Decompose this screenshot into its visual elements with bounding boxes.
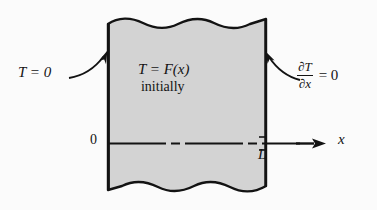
left-pointer-arrow [69,56,104,78]
left-pointer-arrowhead [99,51,107,65]
partial-derivative-fraction: ∂T∂x [296,60,314,90]
slab-shape [108,19,266,192]
origin-label: 0 [90,133,97,147]
heat-conduction-slab-figure: T = 0 T = F(x)initially ∂T∂x= 0 0 L x [0,0,377,210]
axis-arrowhead [312,139,326,149]
length-label: L [258,147,266,162]
interior-condition-note: initially [136,80,190,94]
interior-condition-equation: T = F(x) [138,61,190,77]
right-boundary-condition-label: ∂T∂x= 0 [296,60,338,90]
fraction-numerator: ∂T [296,60,314,75]
x-axis-label: x [338,132,345,147]
right-boundary-equals: = 0 [319,68,339,83]
interior-condition-label: T = F(x)initially [138,62,190,94]
figure-canvas [0,0,377,210]
left-boundary-condition-label: T = 0 [18,65,51,80]
fraction-denominator: ∂x [297,75,313,91]
